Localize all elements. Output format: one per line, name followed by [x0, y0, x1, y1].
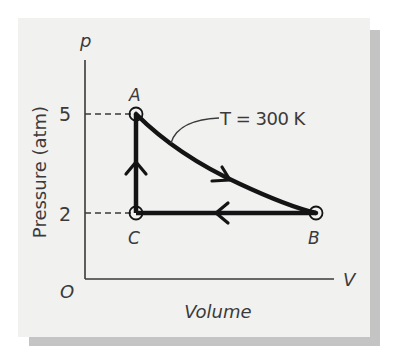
y-tick-label-2: 2 — [59, 203, 71, 225]
point-a-label: A — [128, 85, 141, 105]
point-b-label: B — [308, 228, 320, 248]
y-tick-label-5: 5 — [59, 103, 71, 125]
x-axis-title: Volume — [184, 301, 251, 322]
origin-label: O — [60, 281, 74, 302]
pv-diagram-figure: p V O 5 2 A C B T = 300 K Pressure (atm)… — [0, 0, 396, 360]
y-axis-title: Pressure (atm) — [29, 106, 50, 238]
y-axis-symbol: p — [79, 30, 91, 51]
point-c-label: C — [128, 228, 140, 248]
isotherm-label: T = 300 K — [219, 108, 307, 129]
panel-shadow-right — [370, 30, 380, 346]
panel-shadow-bottom — [29, 337, 380, 346]
x-axis-symbol: V — [343, 269, 357, 290]
